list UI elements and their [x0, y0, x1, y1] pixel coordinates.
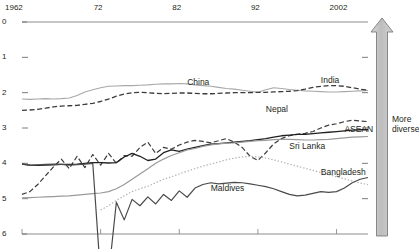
- y-tick-label-0: 0: [2, 18, 6, 26]
- series-label-maldives: Maldives: [211, 184, 245, 193]
- more-diverse-arrow: [371, 18, 393, 236]
- x-tick-label-1962: 1962: [5, 4, 23, 12]
- y-tick-label-4: 4: [2, 159, 6, 167]
- series-line-nepal: [22, 120, 368, 194]
- x-tick-label-2002: 2002: [330, 4, 348, 12]
- x-axis-ticks: [22, 229, 337, 234]
- series-line-india: [22, 86, 368, 111]
- y-tick-label-6: 6: [2, 230, 6, 238]
- y-axis-ticks: [22, 22, 28, 234]
- series-label-sri-lanka: Sri Lanka: [289, 142, 325, 151]
- more-diverse-label-line1: More: [392, 114, 419, 124]
- series-label-india: India: [321, 76, 339, 85]
- x-tick-label-92: 92: [251, 4, 260, 12]
- x-tick-label-72: 72: [94, 4, 103, 12]
- x-tick-label-82: 82: [172, 4, 181, 12]
- series-label-bangladesh: Bangladesh: [321, 168, 366, 177]
- y-tick-label-5: 5: [2, 195, 6, 203]
- series-label-china: China: [187, 78, 209, 87]
- series-lines: [22, 83, 368, 249]
- series-label-nepal: Nepal: [266, 105, 288, 114]
- y-tick-label-2: 2: [2, 89, 6, 97]
- y-tick-label-3: 3: [2, 124, 6, 132]
- y-tick-label-1: 1: [2, 53, 6, 61]
- more-diverse-label-line2: diverse: [392, 124, 419, 134]
- more-diverse-label: More diverse: [392, 114, 419, 134]
- series-line-maldives: [22, 163, 368, 249]
- series-label-asean: ASEAN: [344, 125, 373, 134]
